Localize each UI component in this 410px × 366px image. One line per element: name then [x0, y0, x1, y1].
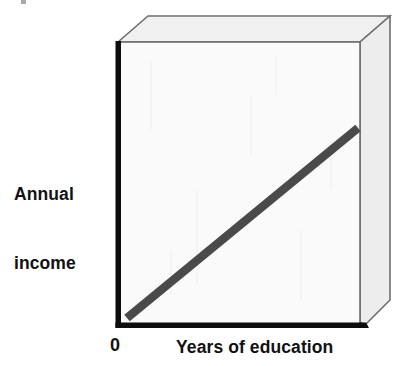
- y-axis-label-line1: Annual: [14, 183, 76, 206]
- plot-area-face: [118, 42, 360, 327]
- y-axis-line: [116, 41, 122, 328]
- y-axis-label: Annual income: [14, 137, 76, 321]
- figure-root: Annual income 0 Years of education: [0, 0, 410, 366]
- block-right-face: [360, 16, 390, 327]
- x-axis-line: [116, 323, 363, 329]
- x-axis-label: Years of education: [176, 336, 333, 358]
- origin-tick-label: 0: [110, 334, 120, 356]
- block-top-face: [118, 16, 390, 42]
- y-axis-label-line2: income: [14, 252, 76, 275]
